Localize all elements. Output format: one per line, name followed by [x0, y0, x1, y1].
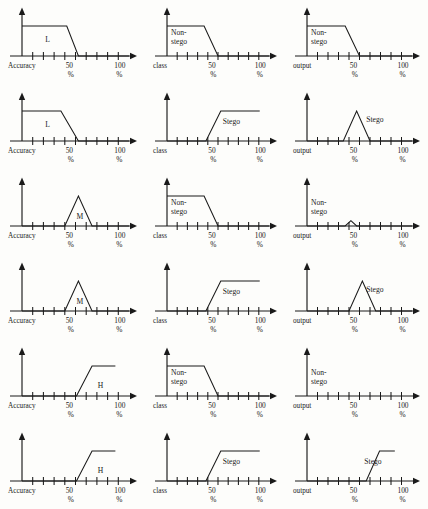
y-axis-arrow-icon — [304, 263, 310, 271]
percent-symbol: % — [116, 325, 122, 334]
x-tick-label: 50 — [66, 231, 74, 240]
mf-panel-r2-c1: LAccuracy50%100% — [0, 85, 145, 170]
y-axis-arrow-icon — [164, 263, 170, 271]
x-tick-label: 100 — [397, 231, 408, 240]
x-axis-name: output — [293, 232, 311, 240]
x-tick-label: 100 — [255, 316, 266, 325]
x-axis-arrow-icon — [413, 138, 420, 144]
x-tick-label: 100 — [114, 401, 125, 410]
x-tick-label: 100 — [114, 231, 125, 240]
mf-panel-r4-c2: Stegoclass50%100% — [145, 255, 285, 340]
x-tick-label: 50 — [208, 486, 216, 495]
membership-curve — [167, 111, 260, 141]
x-axis-arrow-icon — [270, 53, 277, 59]
x-tick-label: 100 — [255, 401, 266, 410]
x-axis-name: class — [153, 147, 167, 155]
x-axis-arrow-icon — [270, 308, 277, 314]
mf-panel-r1-c2: Non-stegoclass50%100% — [145, 0, 285, 85]
x-tick-label: 50 — [66, 61, 74, 70]
curve-label: L — [45, 120, 50, 129]
percent-symbol: % — [352, 70, 358, 79]
curve-label: L — [45, 35, 50, 44]
x-tick-label: 50 — [66, 146, 74, 155]
curve-label: Stego — [223, 117, 241, 126]
x-tick-label: 100 — [114, 146, 125, 155]
mf-panel-r2-c3: Stegooutput50%100% — [285, 85, 428, 170]
x-tick-label: 50 — [350, 61, 358, 70]
y-axis-arrow-icon — [19, 178, 25, 186]
curve-label: Stego — [223, 287, 241, 296]
x-axis-arrow-icon — [130, 223, 137, 229]
mf-panel-r3-c2: Non-stegoclass50%100% — [145, 170, 285, 255]
percent-symbol: % — [399, 325, 405, 334]
y-axis-arrow-icon — [304, 8, 310, 16]
x-tick-label: 100 — [114, 486, 125, 495]
membership-curve — [22, 281, 129, 311]
percent-symbol: % — [352, 410, 358, 419]
x-tick-label: 100 — [255, 231, 266, 240]
x-axis-arrow-icon — [130, 138, 137, 144]
x-tick-label: 50 — [208, 316, 216, 325]
x-tick-label: 100 — [255, 486, 266, 495]
y-axis-arrow-icon — [164, 433, 170, 441]
x-axis-name: output — [293, 147, 311, 155]
percent-symbol: % — [68, 325, 74, 334]
x-tick-label: 100 — [397, 486, 408, 495]
x-axis-arrow-icon — [270, 393, 277, 399]
membership-curve — [22, 26, 129, 56]
x-tick-label: 50 — [66, 486, 74, 495]
x-axis-arrow-icon — [413, 223, 420, 229]
x-tick-label: 50 — [350, 231, 358, 240]
mf-panel-r1-c1: LAccuracy50%100% — [0, 0, 145, 85]
x-tick-label: 100 — [397, 61, 408, 70]
curve-label: Non-stego — [171, 368, 187, 386]
x-tick-label: 50 — [208, 61, 216, 70]
x-axis-name: class — [153, 317, 167, 325]
x-axis-name: Accuracy — [8, 402, 36, 410]
percent-symbol: % — [352, 240, 358, 249]
percent-symbol: % — [352, 155, 358, 164]
curve-label: M — [76, 297, 83, 306]
x-tick-label: 50 — [208, 146, 216, 155]
mf-panel-r6-c2: Stegoclass50%100% — [145, 425, 285, 509]
x-axis-arrow-icon — [270, 223, 277, 229]
percent-symbol: % — [399, 240, 405, 249]
x-axis-arrow-icon — [130, 308, 137, 314]
curve-label: Stego — [223, 457, 241, 466]
x-tick-label: 50 — [350, 486, 358, 495]
y-axis-arrow-icon — [19, 433, 25, 441]
curve-label: Stego — [364, 457, 382, 466]
curve-label: Stego — [366, 115, 384, 124]
membership-curve — [167, 451, 260, 481]
x-tick-label: 50 — [350, 401, 358, 410]
x-axis-arrow-icon — [413, 478, 420, 484]
membership-curve — [167, 281, 260, 311]
x-axis-name: class — [153, 232, 167, 240]
x-tick-label: 100 — [397, 401, 408, 410]
percent-symbol: % — [352, 495, 358, 504]
percent-symbol: % — [257, 325, 263, 334]
percent-symbol: % — [116, 495, 122, 504]
percent-symbol: % — [116, 70, 122, 79]
x-tick-label: 50 — [208, 401, 216, 410]
x-tick-label: 100 — [397, 146, 408, 155]
percent-symbol: % — [399, 410, 405, 419]
x-tick-label: 50 — [208, 231, 216, 240]
curve-label: Non-stego — [311, 368, 327, 386]
x-tick-label: 100 — [255, 61, 266, 70]
x-axis-arrow-icon — [413, 393, 420, 399]
curve-label: Non-stego — [171, 28, 187, 46]
x-tick-label: 50 — [350, 316, 358, 325]
y-axis-arrow-icon — [19, 8, 25, 16]
percent-symbol: % — [68, 240, 74, 249]
percent-symbol: % — [210, 495, 216, 504]
x-axis-arrow-icon — [413, 53, 420, 59]
percent-symbol: % — [68, 495, 74, 504]
x-axis-name: class — [153, 62, 167, 70]
percent-symbol: % — [399, 70, 405, 79]
y-axis-arrow-icon — [304, 433, 310, 441]
curve-label: Stego — [366, 285, 384, 294]
percent-symbol: % — [399, 155, 405, 164]
x-tick-label: 100 — [114, 316, 125, 325]
percent-symbol: % — [68, 155, 74, 164]
